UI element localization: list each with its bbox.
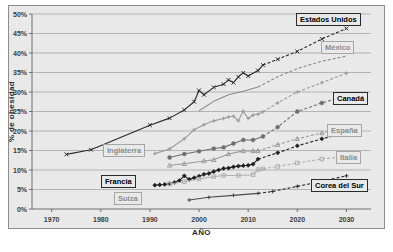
x-tick-label-1980: 1980 (93, 216, 109, 223)
marker-circle (320, 101, 324, 105)
marker-plus (202, 123, 206, 127)
marker-diamond (207, 171, 211, 175)
marker-circle (197, 149, 201, 153)
marker-x (256, 69, 260, 73)
series-label-espa-a: España (327, 124, 362, 137)
y-tick-label-15%: 15% (13, 147, 28, 154)
y-tick-label-5%: 5% (17, 186, 28, 193)
y-tick-label-40%: 40% (13, 50, 28, 57)
marker-diamond (163, 182, 167, 186)
marker-x (227, 78, 231, 82)
series-label-inglaterra: Inglaterra (103, 144, 145, 157)
marker-diamond (217, 168, 221, 172)
series-label-suiza: Suiza (114, 192, 142, 205)
y-tick-label-45%: 45% (13, 30, 28, 37)
y-tick-label-50%: 50% (13, 11, 28, 18)
marker-plus (222, 117, 226, 121)
y-tick-label-0%: 0% (17, 206, 28, 213)
series-label-italia: Italia (336, 151, 361, 164)
marker-diamond (246, 163, 250, 167)
marker-diamond (236, 164, 240, 168)
line-observed (199, 87, 258, 111)
series-estados-unidos (64, 27, 348, 157)
series-inglaterra (153, 71, 348, 155)
line-observed (66, 65, 263, 154)
line-projected (263, 156, 347, 168)
series-label-estados-unidos: Estados Unidos (296, 13, 361, 26)
marker-plus (320, 81, 324, 85)
marker-diamond (295, 144, 299, 148)
x-tick-label-1990: 1990 (142, 216, 158, 223)
marker-plus (187, 198, 191, 202)
marker-diamond (153, 183, 157, 187)
marker-plus (212, 119, 216, 123)
series-label-francia: Francia (101, 175, 136, 188)
marker-circle (251, 138, 255, 142)
series-label-corea-del-sur: Corea del Sur (311, 179, 368, 192)
marker-plus (153, 152, 157, 156)
marker-plus (345, 71, 349, 75)
series-suiza (187, 192, 260, 202)
marker-circle (241, 138, 245, 142)
marker-diamond (202, 172, 206, 176)
marker-plus (345, 174, 349, 178)
marker-circle (168, 156, 172, 160)
x-tick-label-1970: 1970 (44, 216, 60, 223)
line-observed (189, 193, 258, 200)
marker-x (236, 75, 240, 79)
x-tick-label-2020: 2020 (290, 216, 306, 223)
marker-diamond (158, 183, 162, 187)
marker-plus (207, 195, 211, 199)
marker-diamond (226, 166, 230, 170)
marker-diamond (276, 151, 280, 155)
y-tick-label-35%: 35% (13, 69, 28, 76)
chart-plot-area: 0%5%10%15%20%25%30%35%40%45%50%197019801… (0, 0, 393, 252)
y-tick-label-10%: 10% (13, 167, 28, 174)
marker-plus (256, 112, 260, 116)
marker-circle (295, 110, 299, 114)
marker-plus (295, 184, 299, 188)
x-tick-label-2010: 2010 (240, 216, 256, 223)
marker-circle (222, 145, 226, 149)
marker-diamond (320, 137, 324, 141)
line-projected (258, 56, 346, 87)
marker-x (232, 81, 236, 85)
marker-x (202, 93, 206, 97)
marker-diamond (241, 164, 245, 168)
marker-circle (261, 135, 265, 139)
marker-plus (232, 193, 236, 197)
series-label-canad-: Canadá (333, 92, 368, 105)
marker-diamond (231, 165, 235, 169)
y-axis-title: % de obesidad (7, 81, 16, 142)
marker-x (241, 71, 245, 75)
x-axis-title: AÑO (192, 228, 211, 237)
marker-x (246, 74, 250, 78)
x-tick-label-2030: 2030 (339, 216, 355, 223)
marker-circle (212, 147, 216, 151)
x-tick-label-2000: 2000 (191, 216, 207, 223)
series-label-m-xico: México (321, 41, 354, 54)
marker-plus (271, 190, 275, 194)
marker-circle (182, 152, 186, 156)
chart-figure: 0%5%10%15%20%25%30%35%40%45%50%197019801… (0, 0, 393, 252)
marker-circle (276, 125, 280, 129)
marker-plus (227, 115, 231, 119)
marker-circle (232, 142, 236, 146)
